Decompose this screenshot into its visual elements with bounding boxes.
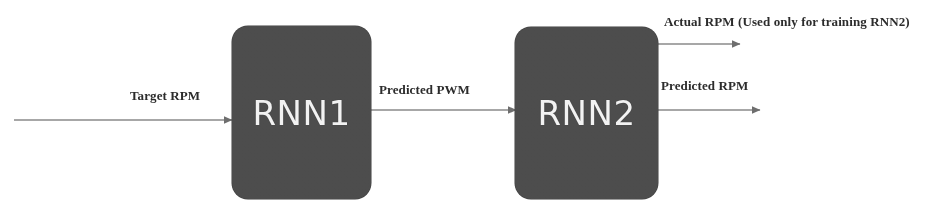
node-rnn2-label: RNN2 [537,96,635,130]
node-rnn1: RNN1 [232,26,371,199]
diagram-canvas: RNN1 RNN2 Target RPM Predicted PWM Actua… [0,0,929,215]
diagram-edges-layer [0,0,929,215]
edge-label-predicted-rpm: Predicted RPM [661,79,748,94]
edge-label-predicted-pwm: Predicted PWM [379,83,470,98]
edge-label-actual-rpm: Actual RPM (Used only for training RNN2) [664,15,910,30]
node-rnn2: RNN2 [515,27,658,199]
node-rnn1-label: RNN1 [252,96,350,130]
edge-label-target-rpm: Target RPM [130,89,200,104]
